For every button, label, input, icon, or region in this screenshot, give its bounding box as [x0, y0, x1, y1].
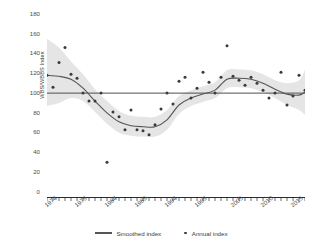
y-tick-label: 0 — [14, 189, 40, 195]
data-point — [148, 133, 151, 136]
y-tick-label: 40 — [14, 149, 40, 155]
chart-container: WBS/WBBS Index 180160140120100806040200 … — [0, 0, 323, 243]
data-point — [130, 108, 133, 111]
data-point — [88, 100, 91, 103]
data-point — [286, 103, 289, 106]
data-point — [244, 84, 247, 87]
data-point — [226, 44, 229, 47]
data-point — [160, 107, 163, 110]
y-tick-label: 100 — [14, 90, 40, 96]
dot-marker-icon — [184, 232, 187, 235]
data-point — [124, 128, 127, 131]
y-tick-label: 80 — [14, 110, 40, 116]
data-point — [70, 73, 73, 76]
x-tick-label: 1974 — [43, 194, 58, 208]
data-point — [190, 97, 193, 100]
chart-svg — [47, 14, 305, 192]
legend-label-annual-index: Annual index — [192, 230, 228, 237]
data-point — [268, 97, 271, 100]
data-point — [184, 76, 187, 79]
data-point — [262, 89, 265, 92]
data-point — [208, 81, 211, 84]
data-point — [256, 82, 259, 85]
y-tick-label: 120 — [14, 70, 40, 76]
data-point — [202, 71, 205, 74]
data-point — [280, 71, 283, 74]
y-tick-label: 140 — [14, 50, 40, 56]
y-tick-label: 180 — [14, 11, 40, 17]
data-point — [214, 92, 217, 95]
data-point — [238, 79, 241, 82]
line-marker-icon — [95, 232, 112, 233]
data-point — [58, 61, 61, 64]
data-point — [100, 92, 103, 95]
data-point — [172, 102, 175, 105]
data-point — [178, 80, 181, 83]
data-point — [166, 92, 169, 95]
data-point — [274, 92, 277, 95]
data-point — [250, 76, 253, 79]
data-point — [196, 87, 199, 90]
y-axis-tick-labels: 180160140120100806040200 — [12, 0, 40, 243]
chart-legend: Smoothed index Annual index — [0, 226, 323, 240]
confidence-band — [47, 39, 305, 137]
data-point — [76, 77, 79, 80]
plot-area — [47, 14, 305, 192]
y-tick-label: 20 — [14, 169, 40, 175]
legend-item-smoothed-index[interactable]: Smoothed index — [95, 230, 161, 237]
data-point — [136, 128, 139, 131]
data-point — [298, 74, 301, 77]
x-axis-tick-labels: 197419791984198919941999200520102015 — [47, 203, 323, 225]
data-point — [142, 129, 145, 132]
data-point — [154, 123, 157, 126]
y-tick-label: 160 — [14, 31, 40, 37]
data-point — [292, 95, 295, 98]
data-point — [118, 115, 121, 118]
data-point — [52, 86, 55, 89]
data-point — [232, 75, 235, 78]
data-point — [220, 76, 223, 79]
data-point — [94, 100, 97, 103]
legend-item-annual-index[interactable]: Annual index — [178, 230, 227, 237]
data-point — [64, 46, 67, 49]
data-point — [106, 161, 109, 164]
data-point — [82, 92, 85, 95]
legend-label-smoothed-index: Smoothed index — [116, 230, 161, 237]
data-point — [112, 110, 115, 113]
y-tick-label: 60 — [14, 129, 40, 135]
